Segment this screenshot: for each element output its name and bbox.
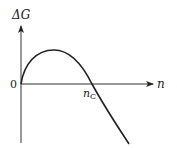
origin-label: 0 <box>10 78 17 91</box>
delta-g-diagram: ΔG n 0 nC <box>0 0 177 148</box>
delta-g-curve <box>21 50 129 144</box>
y-axis-label: ΔG <box>11 8 31 22</box>
x-axis-label: n <box>157 77 165 91</box>
